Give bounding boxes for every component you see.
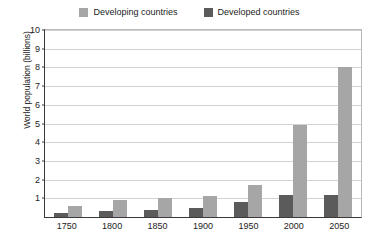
y-tick-label: 5	[35, 119, 40, 129]
y-tick-label: 7	[35, 81, 40, 91]
y-tick-label: 2	[35, 175, 40, 185]
x-axis-tick-labels: 1750180018501900195020002050	[44, 221, 362, 231]
bar-groups	[45, 30, 361, 217]
bar-developed	[234, 202, 248, 217]
legend-entry-developing: Developing countries	[79, 7, 177, 17]
y-tick-label: 10	[30, 25, 40, 35]
y-tick-label: 9	[35, 44, 40, 54]
chart-legend: Developing countries Developed countries	[0, 7, 379, 17]
x-tick-label: 1950	[226, 221, 271, 231]
legend-swatch-developing	[79, 8, 88, 17]
y-tick-label: 3	[35, 156, 40, 166]
bar-group	[180, 30, 225, 217]
y-tick-label: 4	[35, 137, 40, 147]
legend-swatch-developed	[204, 8, 213, 17]
bar-developing	[113, 200, 127, 217]
y-tick-label: 6	[35, 100, 40, 110]
bar-developed	[144, 210, 158, 217]
bar-group	[90, 30, 135, 217]
plot-area: 12345678910	[44, 29, 362, 218]
chart-page: Developing countries Developed countries…	[0, 0, 379, 250]
x-tick-label: 1750	[44, 221, 89, 231]
y-tick-label: 8	[35, 62, 40, 72]
bar-developing	[293, 125, 307, 217]
legend-entry-developed: Developed countries	[204, 7, 300, 17]
bar-group	[316, 30, 361, 217]
bar-group	[226, 30, 271, 217]
x-tick-label: 1800	[89, 221, 134, 231]
x-tick-label: 1900	[180, 221, 225, 231]
bar-developing	[68, 206, 82, 217]
x-tick-label: 2000	[271, 221, 316, 231]
bar-developed	[99, 211, 113, 217]
bar-developed	[279, 195, 293, 217]
legend-label-developing: Developing countries	[93, 7, 177, 17]
bar-group	[45, 30, 90, 217]
bar-developing	[203, 196, 217, 217]
bar-developed	[324, 195, 338, 217]
bar-group	[271, 30, 316, 217]
bar-developing	[248, 185, 262, 217]
bar-developing	[338, 67, 352, 217]
legend-label-developed: Developed countries	[218, 7, 300, 17]
y-tick-label: 1	[35, 193, 40, 203]
x-tick-label: 2050	[317, 221, 362, 231]
bar-developed	[189, 208, 203, 217]
bar-developed	[54, 213, 68, 217]
x-tick-label: 1850	[135, 221, 180, 231]
bar-group	[135, 30, 180, 217]
bar-developing	[158, 198, 172, 217]
